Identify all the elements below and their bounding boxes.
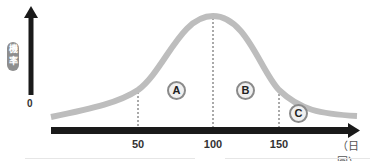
bell-curve-diagram xyxy=(0,0,372,161)
x-tick-100: 100 xyxy=(204,138,222,150)
region-c-marker: C xyxy=(289,104,308,123)
x-tick-150: 150 xyxy=(270,138,288,150)
y-axis-label: 機率 xyxy=(7,42,19,71)
divider xyxy=(25,158,195,159)
region-a-marker: A xyxy=(167,81,186,100)
distribution-curve xyxy=(51,16,357,117)
x-axis-arrow xyxy=(51,123,360,138)
divider xyxy=(225,158,370,159)
region-b-marker: B xyxy=(236,81,255,100)
x-tick-50: 50 xyxy=(132,138,144,150)
guide-lines xyxy=(138,18,279,127)
y-axis-arrow xyxy=(24,6,38,95)
origin-label: 0 xyxy=(27,98,33,109)
